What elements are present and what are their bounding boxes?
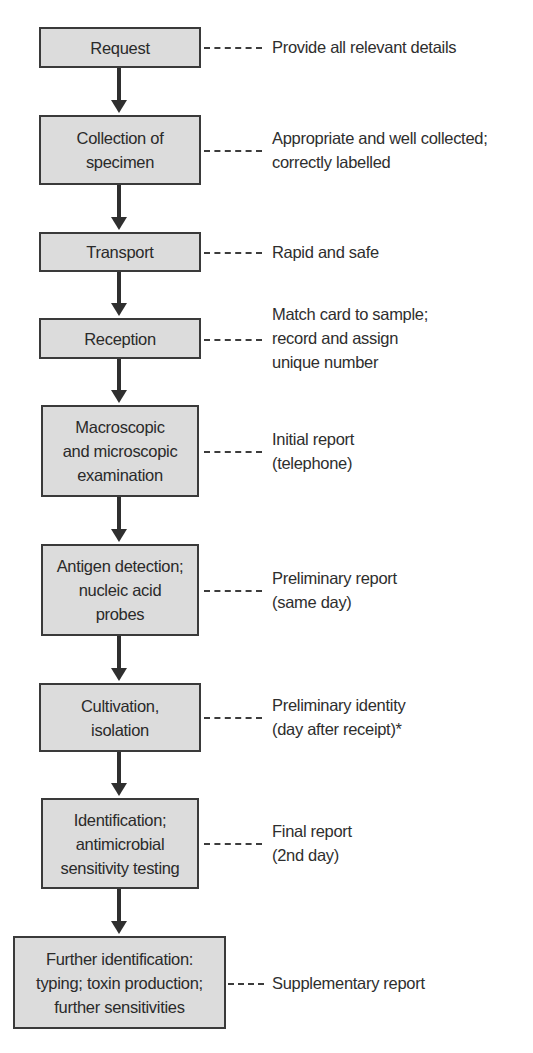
dashed-connector — [204, 252, 262, 254]
down-arrow-icon — [111, 68, 127, 114]
dashed-connector — [228, 983, 264, 985]
dashed-connector — [204, 843, 262, 845]
step-collection-note: Appropriate and well collected; correctl… — [272, 126, 487, 174]
down-arrow-icon — [111, 636, 127, 682]
step-antigen-note: Preliminary report (same day) — [272, 566, 397, 614]
step-further-identification-note: Supplementary report — [272, 971, 425, 995]
dashed-connector — [204, 717, 262, 719]
step-reception-box: Reception — [39, 318, 201, 359]
down-arrow-icon — [111, 359, 127, 404]
step-macroscopic-box: Macroscopic and microscopic examination — [41, 405, 199, 497]
dashed-connector — [204, 451, 262, 453]
down-arrow-icon — [111, 889, 127, 935]
step-further-identification-box: Further identification: typing; toxin pr… — [13, 936, 226, 1029]
step-macroscopic-note: Initial report (telephone) — [272, 427, 354, 475]
step-cultivation-box: Cultivation, isolation — [39, 683, 201, 752]
step-cultivation-note: Preliminary identity (day after receipt)… — [272, 693, 405, 741]
step-transport-note: Rapid and safe — [272, 240, 379, 264]
step-identification-box: Identification; antimicrobial sensitivit… — [41, 798, 199, 889]
dashed-connector — [204, 339, 262, 341]
dashed-connector — [204, 150, 262, 152]
down-arrow-icon — [111, 752, 127, 797]
dashed-connector — [204, 590, 262, 592]
dashed-connector — [204, 47, 262, 49]
step-transport-box: Transport — [39, 232, 201, 272]
step-collection-box: Collection of specimen — [39, 115, 201, 185]
down-arrow-icon — [111, 185, 127, 231]
down-arrow-icon — [111, 497, 127, 543]
step-antigen-box: Antigen detection; nucleic acid probes — [41, 544, 199, 636]
step-request-box: Request — [39, 27, 201, 68]
step-request-note: Provide all relevant details — [272, 35, 456, 59]
step-reception-note: Match card to sample; record and assign … — [272, 302, 428, 374]
down-arrow-icon — [111, 272, 127, 317]
step-identification-note: Final report (2nd day) — [272, 819, 352, 867]
